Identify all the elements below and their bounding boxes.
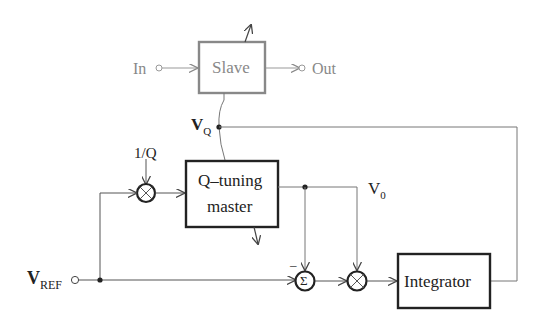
sum-symbol: Σ [300, 274, 308, 287]
master-label-line2: master [207, 198, 252, 215]
out-label: Out [312, 61, 336, 77]
slave-label: Slave [212, 59, 250, 76]
v0-label: V0 [368, 180, 386, 197]
integrator-label: Integrator [404, 273, 471, 290]
vref-label: VREF [27, 269, 62, 287]
vref-branch-wire [100, 193, 136, 280]
master-label-line1: Q–tuning [198, 172, 262, 189]
v0-sub: 0 [380, 189, 386, 201]
in-label: In [133, 61, 146, 77]
master-tuning-arrow [254, 227, 258, 244]
slave-tuning-arrow [245, 25, 251, 42]
vq-sub: Q [203, 125, 211, 137]
vq-main: V [191, 115, 203, 134]
out-terminal [299, 65, 305, 71]
v0-main: V [368, 179, 380, 198]
vq-label: VQ [191, 116, 211, 133]
vref-terminal [71, 276, 78, 283]
minus-sign: – [290, 258, 297, 271]
inv-q-label: 1/Q [134, 146, 157, 161]
vref-sub: REF [40, 278, 62, 292]
vref-node [97, 277, 102, 282]
vref-main: V [27, 268, 40, 288]
in-terminal [156, 65, 162, 71]
